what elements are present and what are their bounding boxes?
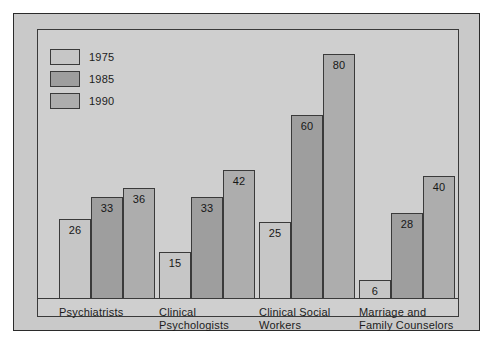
bar-value-label: 40 [424,181,454,193]
bar-value-label: 6 [360,285,390,297]
bar[interactable]: 40 [423,176,455,298]
category-label: Clinical Psychologists [159,306,229,332]
bar-value-label: 26 [60,224,90,236]
bar[interactable]: 15 [159,252,191,298]
chart-figure: 1975 1985 1990 26333615334225608062840 P… [13,13,480,331]
category-label: Clinical Social Workers [259,306,330,332]
bar[interactable]: 42 [223,170,255,298]
bar[interactable]: 80 [323,54,355,298]
bar-value-label: 33 [92,202,122,214]
bar-value-label: 60 [292,120,322,132]
bar[interactable]: 36 [123,188,155,298]
bar-value-label: 80 [324,59,354,71]
bar-value-label: 42 [224,175,254,187]
bar-value-label: 36 [124,193,154,205]
category-label: Psychiatrists [59,306,123,319]
plot-area: 1975 1985 1990 26333615334225608062840 P… [37,29,459,317]
axis-baseline [38,298,458,299]
bar[interactable]: 25 [259,222,291,298]
bar[interactable]: 28 [391,213,423,298]
bar-group: 62840 [359,176,455,298]
bar[interactable]: 6 [359,280,391,298]
category-label: Marriage and Family Counselors [359,306,453,332]
bar-group: 256080 [259,54,355,298]
bar-value-label: 33 [192,202,222,214]
bar[interactable]: 26 [59,219,91,298]
bar-group: 263336 [59,188,155,298]
bar[interactable]: 33 [191,197,223,298]
bar-group: 153342 [159,170,255,298]
bar-value-label: 25 [260,227,290,239]
bar-value-label: 28 [392,218,422,230]
bar-value-label: 15 [160,257,190,269]
bar[interactable]: 33 [91,197,123,298]
bar[interactable]: 60 [291,115,323,298]
bars-area: 26333615334225608062840 [38,30,458,298]
